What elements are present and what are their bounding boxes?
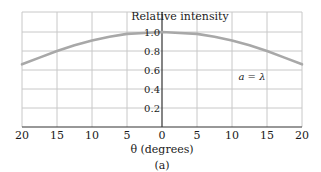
- x-tick-label: 20: [15, 129, 29, 142]
- x-tick-label: 15: [50, 129, 64, 142]
- y-tick-label: 0.6: [144, 65, 160, 76]
- x-tick-label: 5: [194, 129, 201, 142]
- y-tick-label: 0.2: [144, 103, 160, 114]
- subcaption: (a): [154, 159, 169, 172]
- x-tick-label: 15: [260, 129, 274, 142]
- y-tick-labels: 0.20.40.60.81.0: [144, 27, 160, 114]
- x-tick-labels: 201510505101520: [15, 129, 309, 142]
- chart-title: Relative intensity: [131, 10, 229, 23]
- x-tick-label: 20: [295, 129, 309, 142]
- curve-annotation: a = λ: [238, 71, 265, 82]
- x-axis-label: θ (degrees): [130, 143, 193, 156]
- chart: 0.20.40.60.81.0 201510505101520 Relative…: [0, 0, 321, 172]
- y-tick-label: 0.8: [144, 46, 160, 57]
- x-tick-label: 0: [159, 129, 166, 142]
- x-tick-label: 5: [124, 129, 131, 142]
- x-tick-label: 10: [225, 129, 239, 142]
- y-tick-label: 0.4: [144, 84, 160, 95]
- y-tick-label: 1.0: [144, 27, 160, 38]
- x-tick-label: 10: [85, 129, 99, 142]
